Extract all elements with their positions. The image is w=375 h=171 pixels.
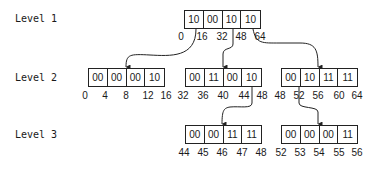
tick-label: 64 [351, 90, 362, 101]
level-1-node: 10 00 10 10 [184, 10, 261, 29]
tick-label: 55 [333, 147, 344, 158]
cell: 11 [338, 126, 357, 143]
tick-label: 44 [178, 147, 189, 158]
cell: 00 [320, 126, 339, 143]
tick-label: 47 [236, 147, 247, 158]
level-2-node-a: 00 00 00 10 [88, 68, 165, 87]
tick-label: 60 [333, 90, 344, 101]
cell: 11 [320, 69, 339, 86]
tick-label: 8 [123, 90, 129, 101]
cell: 11 [224, 126, 243, 143]
cell: 00 [205, 126, 224, 143]
tick-label: 44 [238, 90, 249, 101]
cell: 00 [89, 69, 108, 86]
level-2-node-c: 00 10 11 11 [281, 68, 358, 87]
tick-label: 45 [197, 147, 208, 158]
tick-label: 56 [312, 90, 323, 101]
cell: 00 [186, 126, 205, 143]
cell: 00 [224, 69, 243, 86]
tick-label: 56 [351, 147, 362, 158]
tick-label: 46 [216, 147, 227, 158]
cell: 00 [186, 69, 205, 86]
tick-label: 52 [275, 147, 286, 158]
tick-label: 36 [197, 90, 208, 101]
tick-label: 16 [160, 90, 171, 101]
cell: 00 [282, 126, 301, 143]
tick-label: 0 [178, 31, 184, 42]
tick-label: 4 [102, 90, 108, 101]
cell: 00 [282, 69, 301, 86]
tick-label: 48 [256, 90, 267, 101]
tick-label: 64 [254, 31, 265, 42]
tick-label: 53 [294, 147, 305, 158]
cell: 10 [185, 11, 204, 28]
tick-label: 40 [217, 90, 228, 101]
cell: 10 [145, 69, 164, 86]
cell: 00 [301, 126, 320, 143]
tick-label: 48 [274, 90, 285, 101]
tick-label: 48 [235, 31, 246, 42]
tick-label: 52 [293, 90, 304, 101]
cell: 00 [108, 69, 127, 86]
cell: 00 [127, 69, 146, 86]
cell: 10 [241, 11, 260, 28]
cell: 10 [242, 69, 261, 86]
tick-label: 48 [255, 147, 266, 158]
tick-label: 32 [216, 31, 227, 42]
tick-label: 54 [313, 147, 324, 158]
cell: 10 [223, 11, 242, 28]
level-3-node-d: 00 00 11 11 [185, 125, 262, 144]
cell: 11 [338, 69, 357, 86]
tick-label: 32 [177, 90, 188, 101]
cell: 00 [204, 11, 223, 28]
tick-label: 12 [142, 90, 153, 101]
level-3-node-e: 00 00 00 11 [281, 125, 358, 144]
cell: 10 [301, 69, 320, 86]
arrow-l1-16-to-l2-box-a [126, 29, 196, 67]
tick-label: 0 [82, 90, 88, 101]
cell: 11 [205, 69, 224, 86]
cell: 11 [242, 126, 261, 143]
tick-label: 16 [196, 31, 207, 42]
level-2-node-b: 00 11 00 10 [185, 68, 262, 87]
